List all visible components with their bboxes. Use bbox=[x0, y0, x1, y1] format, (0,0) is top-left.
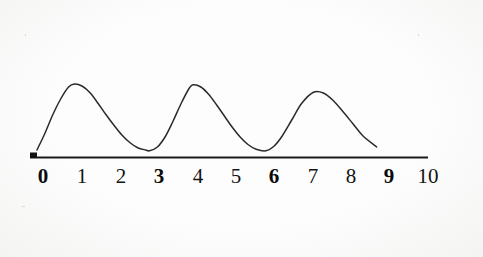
axis-tick-label-7: 7 bbox=[308, 163, 319, 189]
figure-canvas: 0 1 2 3 4 5 6 7 8 9 10 bbox=[0, 0, 483, 257]
axis-tick-label-6: 6 bbox=[269, 163, 280, 189]
axis-tick-label-0: 0 bbox=[38, 163, 49, 189]
axis-tick-label-group: 0 1 2 3 4 5 6 7 8 9 10 bbox=[0, 163, 483, 193]
axis-tick-label-1: 1 bbox=[77, 163, 88, 189]
axis-tick-label-2: 2 bbox=[116, 163, 127, 189]
axis-tick-label-10: 10 bbox=[418, 163, 439, 189]
axis-tick-label-8: 8 bbox=[346, 163, 357, 189]
sine-curve bbox=[37, 84, 377, 151]
axis-tick-label-9: 9 bbox=[384, 163, 395, 189]
axis-tick-label-4: 4 bbox=[193, 163, 204, 189]
axis-tick-label-5: 5 bbox=[231, 163, 242, 189]
origin-tick-icon bbox=[30, 153, 37, 159]
axis-tick-label-3: 3 bbox=[154, 163, 165, 189]
sine-wave-plot bbox=[0, 0, 483, 257]
